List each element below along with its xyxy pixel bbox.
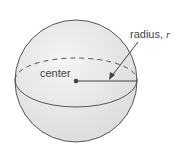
- radius-label: radius, r: [130, 28, 170, 40]
- center-point: [74, 79, 79, 84]
- sphere-diagram: [0, 0, 184, 149]
- center-label: center: [40, 67, 71, 79]
- radius-variable: r: [166, 28, 170, 40]
- radius-label-text: radius,: [130, 28, 166, 40]
